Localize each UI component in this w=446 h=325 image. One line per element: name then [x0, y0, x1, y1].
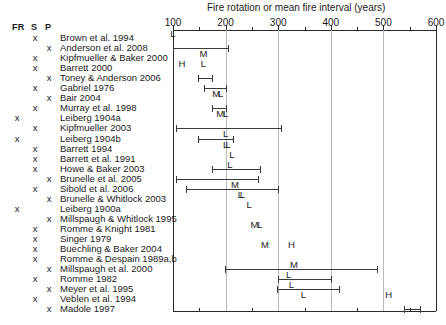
range-cap-low [198, 75, 199, 82]
range-bar [176, 179, 259, 180]
range-cap-low [212, 105, 213, 112]
range-cap-low [277, 286, 278, 293]
column-header-s: S [31, 22, 37, 32]
value-marker-L: L [221, 109, 230, 118]
value-marker-L: L [299, 290, 308, 299]
value-marker-M: M [199, 49, 208, 58]
indicator-s-row-0: x [30, 32, 40, 43]
study-label: Madole 1997 [60, 303, 115, 314]
range-cap-low [278, 276, 279, 283]
indicator-s-row-15: x [30, 183, 40, 194]
indicator-p-row-1: x [44, 42, 54, 53]
range-cap-high [339, 286, 340, 293]
range-cap-low [176, 125, 177, 132]
value-marker-L: L [227, 150, 236, 159]
range-cap-high [281, 125, 282, 132]
range-cap-low [404, 306, 405, 313]
value-marker-L: L [245, 200, 254, 209]
indicator-s-row-24: x [30, 273, 40, 284]
range-cap-low [186, 186, 187, 193]
x-tick-bottom-250 [252, 308, 253, 311]
value-marker-H: H [384, 290, 393, 299]
value-marker-L: L [255, 220, 264, 229]
value-marker-M: M [261, 240, 270, 249]
range-bar [225, 269, 378, 270]
range-cap-low [212, 166, 213, 173]
range-cap-high [331, 276, 332, 283]
indicator-fr-row-8: x [12, 112, 22, 123]
range-cap-low [198, 136, 199, 143]
value-marker-H: H [177, 59, 186, 68]
range-cap-high [226, 85, 227, 92]
value-marker-M: M [289, 260, 298, 269]
range-cap-low [225, 266, 226, 273]
range-cap-high [260, 166, 261, 173]
plot-border-left [173, 30, 174, 311]
value-marker-L: L [236, 190, 245, 199]
value-marker-H: H [287, 240, 296, 249]
indicator-s-row-5: x [30, 82, 40, 93]
indicator-p-row-27: x [44, 303, 54, 314]
indicator-p-row-14: x [44, 173, 54, 184]
x-tick-top-550 [410, 27, 411, 30]
indicator-p-row-6: x [44, 92, 54, 103]
x-axis-line-top [173, 30, 436, 31]
gridline-500 [383, 30, 384, 311]
range-cap-high [377, 266, 378, 273]
value-marker-L: L [225, 160, 234, 169]
range-bar [212, 169, 259, 170]
indicator-p-row-23: x [44, 263, 54, 274]
indicator-fr-row-17: x [12, 203, 22, 214]
value-marker-M: M [231, 180, 240, 189]
range-cap-high [258, 176, 259, 183]
plot-border-right [436, 30, 437, 311]
indicator-s-row-26: x [30, 293, 40, 304]
x-tick-bottom-450 [357, 308, 358, 311]
indicator-p-row-18: x [44, 213, 54, 224]
indicator-s-row-22: x [30, 253, 40, 264]
range-bar [186, 189, 278, 190]
range-cap-high [212, 75, 213, 82]
range-cap-high [233, 136, 234, 143]
value-marker-L: L [216, 89, 225, 98]
x-tick-top-350 [305, 27, 306, 30]
value-marker-L: L [221, 129, 230, 138]
fire-rotation-range-plot: Fire rotation or mean fire interval (yea… [0, 0, 446, 325]
column-header-fr: FR [12, 22, 25, 32]
range-cap-low [204, 85, 205, 92]
range-bar [198, 78, 212, 79]
x-tick-top-250 [252, 27, 253, 30]
range-bar [404, 309, 420, 310]
x-tick-bottom-350 [305, 308, 306, 311]
value-marker-L: L [199, 59, 208, 68]
x-tick-top-150 [199, 27, 200, 30]
indicator-p-row-16: x [44, 193, 54, 204]
indicator-fr-row-10: x [12, 133, 22, 144]
indicator-s-row-3: x [30, 62, 40, 73]
value-marker-L: L [284, 270, 293, 279]
value-marker-L: L [169, 29, 178, 38]
x-tick-label-600: 600 [419, 17, 446, 28]
indicator-s-row-9: x [30, 122, 40, 133]
indicator-s-row-7: x [30, 102, 40, 113]
x-tick-bottom-150 [199, 308, 200, 311]
indicator-p-row-25: x [44, 283, 54, 294]
x-axis-line-bottom [173, 311, 436, 312]
value-marker-L: L [287, 280, 296, 289]
range-cap-high [228, 45, 229, 52]
indicator-p-row-4: x [44, 72, 54, 83]
range-cap-high [278, 186, 279, 193]
axis-title: Fire rotation or mean fire interval (yea… [207, 2, 385, 13]
range-cap-high [420, 306, 421, 313]
column-header-p: P [45, 22, 51, 32]
indicator-s-row-13: x [30, 163, 40, 174]
range-cap-low [176, 176, 177, 183]
range-cap-low [173, 45, 174, 52]
value-marker-L: L [224, 140, 233, 149]
x-tick-top-450 [357, 27, 358, 30]
